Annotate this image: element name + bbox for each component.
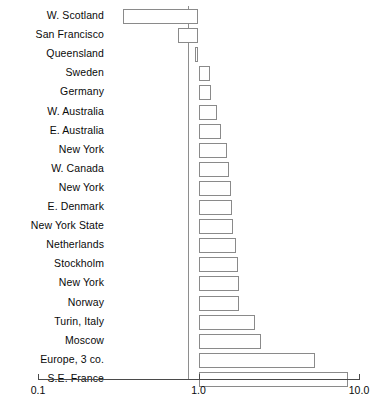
bar xyxy=(199,219,234,234)
bar xyxy=(199,124,221,139)
bar xyxy=(199,85,212,100)
bar xyxy=(199,296,240,311)
x-axis-tick xyxy=(359,374,360,380)
plot-area xyxy=(0,0,382,380)
bar-chart: W. ScotlandSan FranciscoQueenslandSweden… xyxy=(0,0,382,406)
bar xyxy=(199,143,227,158)
x-axis-tick-label: 10.0 xyxy=(349,384,369,396)
bar xyxy=(123,9,198,24)
bar xyxy=(199,276,239,291)
x-axis-tick-label: 1.0 xyxy=(191,384,206,396)
bar xyxy=(199,315,256,330)
bar xyxy=(199,257,238,272)
bar xyxy=(195,47,199,62)
bar xyxy=(199,200,233,215)
bar xyxy=(199,353,315,368)
x-axis-tick xyxy=(38,374,39,380)
bar xyxy=(199,181,232,196)
bar xyxy=(199,66,211,81)
bar xyxy=(199,162,230,177)
bar xyxy=(199,238,237,253)
x-axis-tick xyxy=(199,374,200,380)
bar xyxy=(199,105,217,120)
x-axis-tick-label: 0.1 xyxy=(31,384,46,396)
reference-line-1 xyxy=(188,6,189,379)
bar xyxy=(178,28,198,43)
bar xyxy=(199,334,261,349)
